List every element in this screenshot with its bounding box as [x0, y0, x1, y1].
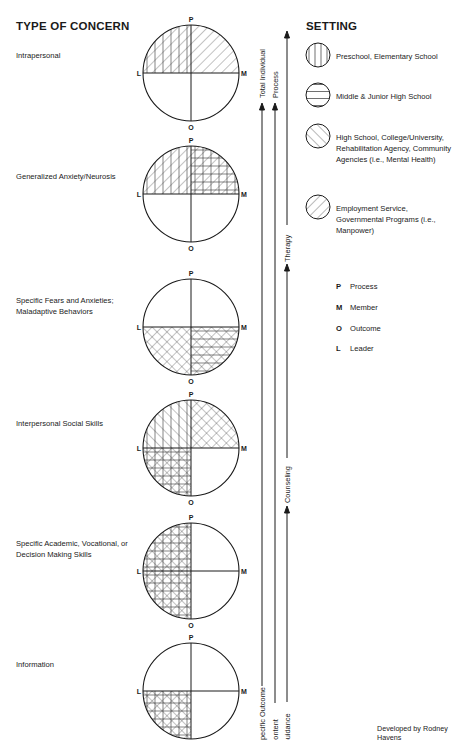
- axis-label-right: M: [241, 568, 247, 575]
- concern-circle-4: PMOL: [137, 391, 247, 506]
- concern-circle-6: PMOL: [137, 634, 247, 740]
- label-specific-outcome: Specific Outcome: [258, 687, 267, 740]
- axis-label-bottom: O: [188, 378, 194, 385]
- concern-circle-3: PMOL: [137, 270, 247, 385]
- legend-swatch-vertical-icon: [306, 43, 330, 67]
- axis-label-right: M: [241, 70, 247, 77]
- axis-label-top: P: [189, 514, 194, 521]
- concern-circles: PMOLPMOLPMOLPMOLPMOLPMOL: [137, 16, 247, 740]
- legend-swatch-forwardslash-icon: [306, 195, 330, 219]
- axis-label-top: P: [189, 137, 194, 144]
- diagram-canvas: PMOLPMOLPMOLPMOLPMOLPMOL Total Individua…: [0, 0, 468, 740]
- concern-circle-5: PMOL: [137, 514, 247, 629]
- concern-circle-1: PMOL: [137, 16, 247, 131]
- label-content: Content: [271, 719, 280, 740]
- legend-swatch-horizontal-icon: [306, 83, 330, 107]
- axis-label-right: M: [241, 191, 247, 198]
- axis-label-bottom: O: [188, 124, 194, 131]
- continuum-line-outcome-individual: [260, 103, 265, 686]
- label-guidance: Guidance: [283, 713, 292, 740]
- label-counseling: Counseling: [283, 466, 292, 503]
- continuum-line-guidance-counseling-therapy: [285, 31, 290, 702]
- axis-label-left: L: [137, 324, 142, 331]
- concern-circle-2: PMOL: [137, 137, 247, 252]
- continuum-arrows: [260, 31, 290, 703]
- legend-swatch-backslash-icon: [306, 124, 330, 148]
- axis-label-right: M: [241, 688, 247, 695]
- axis-label-bottom: O: [188, 499, 194, 506]
- axis-label-top: P: [189, 634, 194, 641]
- label-therapy: Therapy: [283, 235, 292, 262]
- axis-label-left: L: [137, 445, 142, 452]
- axis-label-top: P: [189, 270, 194, 277]
- axis-label-bottom: O: [188, 245, 194, 252]
- axis-label-right: M: [241, 445, 247, 452]
- continuum-line-content-process: [273, 103, 278, 703]
- label-total-individual: Total Individual: [258, 49, 267, 98]
- axis-label-right: M: [241, 324, 247, 331]
- axis-label-bottom: O: [188, 622, 194, 629]
- axis-label-top: P: [189, 16, 194, 23]
- axis-label-left: L: [137, 568, 142, 575]
- axis-label-left: L: [137, 688, 142, 695]
- label-process: Process: [271, 71, 280, 98]
- axis-label-left: L: [137, 70, 142, 77]
- axis-label-top: P: [189, 391, 194, 398]
- axis-label-left: L: [137, 191, 142, 198]
